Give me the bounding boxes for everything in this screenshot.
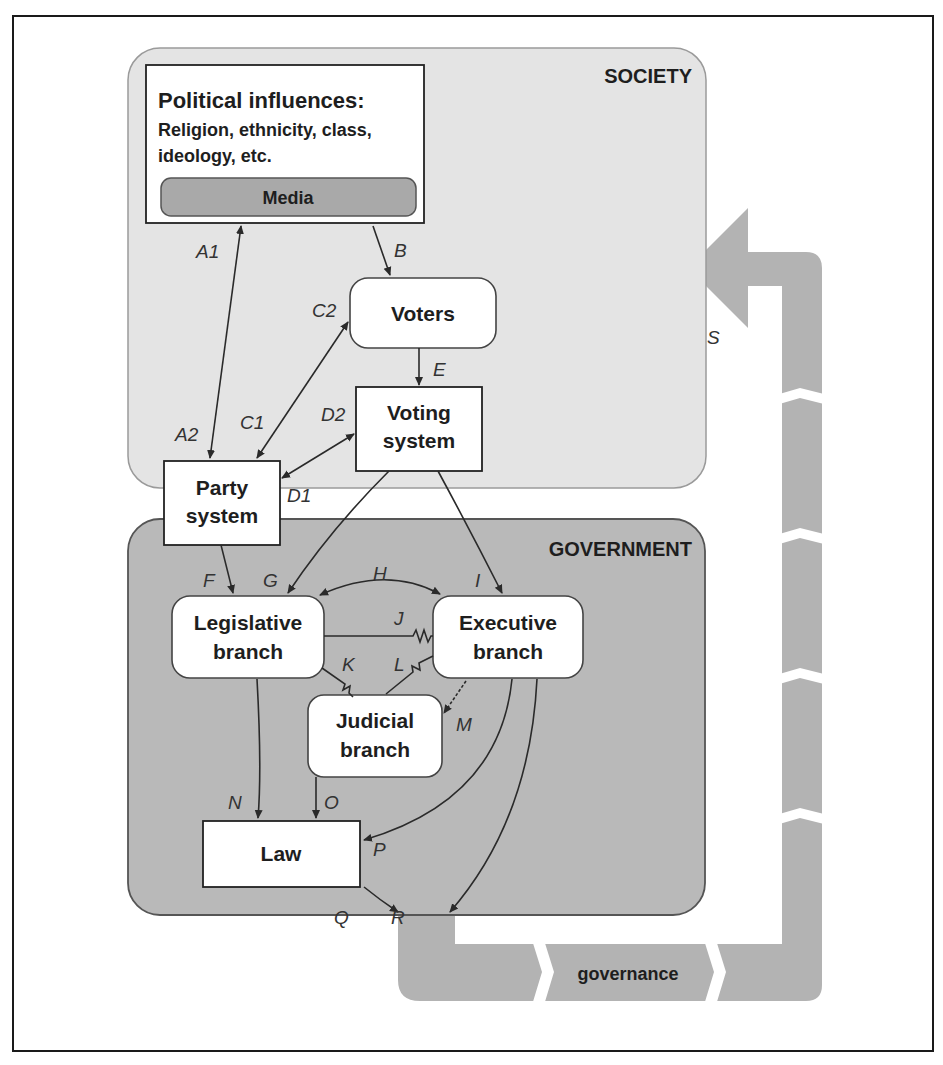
edge-label-j: J: [393, 608, 404, 629]
party-system-line1: Party: [196, 476, 249, 499]
law-node: Law: [203, 821, 360, 887]
voting-system-line2: system: [383, 429, 455, 452]
society-title: SOCIETY: [604, 65, 692, 87]
legislative-line1: Legislative: [194, 611, 303, 634]
political-influences-line2: ideology, etc.: [158, 146, 272, 166]
judicial-branch-node: Judicial branch: [308, 695, 442, 777]
judicial-line2: branch: [340, 738, 410, 761]
edge-label-b: B: [394, 240, 407, 261]
edge-label-p: P: [373, 839, 386, 860]
government-title: GOVERNMENT: [549, 538, 692, 560]
voting-system-line1: Voting: [387, 401, 451, 424]
edge-label-o: O: [324, 792, 339, 813]
edge-label-m: M: [456, 714, 472, 735]
executive-line1: Executive: [459, 611, 557, 634]
political-system-diagram: governance S SOCIETY GOVERNMENT Politica…: [0, 0, 943, 1065]
edge-label-c2: C2: [312, 300, 337, 321]
edge-label-a1: A1: [195, 241, 219, 262]
edge-label-h: H: [373, 563, 387, 584]
legislative-branch-node: Legislative branch: [172, 596, 324, 678]
judicial-line1: Judicial: [336, 709, 414, 732]
edge-label-d2: D2: [321, 404, 346, 425]
voters-label: Voters: [391, 302, 455, 325]
edge-label-a2: A2: [174, 424, 199, 445]
edge-label-s: S: [707, 327, 720, 348]
political-influences-node: Political influences: Religion, ethnicit…: [146, 65, 424, 223]
edge-label-g: G: [263, 570, 278, 591]
executive-line2: branch: [473, 640, 543, 663]
edge-label-k: K: [342, 654, 356, 675]
legislative-line2: branch: [213, 640, 283, 663]
edge-label-f: F: [203, 570, 216, 591]
edge-label-d1: D1: [287, 485, 311, 506]
edge-label-c1: C1: [240, 412, 264, 433]
edge-label-n: N: [228, 792, 242, 813]
political-influences-line1: Religion, ethnicity, class,: [158, 120, 372, 140]
edge-label-r: R: [391, 907, 405, 928]
edge-label-q: Q: [334, 907, 349, 928]
political-influences-title: Political influences:: [158, 88, 365, 113]
party-system-line2: system: [186, 504, 258, 527]
media-label: Media: [262, 188, 314, 208]
voters-node: Voters: [350, 278, 496, 348]
law-label: Law: [261, 842, 303, 865]
edge-label-e: E: [433, 359, 446, 380]
edge-label-i: I: [475, 570, 481, 591]
voting-system-node: Voting system: [356, 387, 482, 471]
executive-branch-node: Executive branch: [433, 596, 583, 678]
governance-label: governance: [577, 964, 678, 984]
edge-label-l: L: [394, 654, 405, 675]
party-system-node: Party system: [164, 461, 280, 545]
